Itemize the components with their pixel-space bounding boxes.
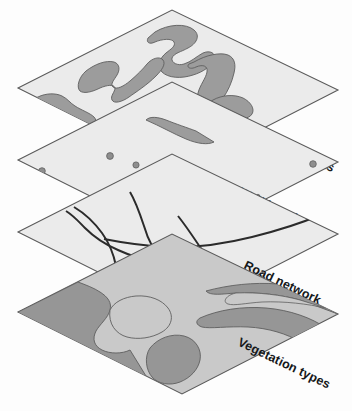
well-point (310, 161, 317, 168)
well-point (133, 162, 139, 168)
well-point (107, 153, 114, 160)
vegetation-area-light-centre (110, 296, 172, 339)
isometric-layer-stack-svg: Conservation areas Well locations (0, 0, 352, 411)
layer-label-vegetation-types: Vegetation types (236, 335, 333, 392)
layer-stack-diagram: Conservation areas Well locations (0, 0, 352, 411)
